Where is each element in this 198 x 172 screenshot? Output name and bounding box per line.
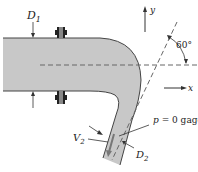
flange-bolt-top xyxy=(55,27,67,38)
flange-bolt-bottom xyxy=(55,91,67,104)
label-x-axis: x xyxy=(188,83,193,93)
label-d2: D2 xyxy=(135,149,149,163)
pipe-body xyxy=(3,38,141,165)
label-d1: D1 xyxy=(26,9,41,24)
d1-arrow-bottom xyxy=(31,91,35,96)
d1-arrow-top xyxy=(31,33,35,38)
label-v2: V2 xyxy=(73,132,85,146)
label-y-axis: y xyxy=(149,5,156,15)
y-axis-arrow-icon xyxy=(143,6,147,12)
label-pressure: p = 0 gage xyxy=(153,115,198,125)
pipe-bend-diagram: D1 y x 60° p = 0 gage V2 D2 xyxy=(0,0,198,172)
v2-arrow-tip xyxy=(97,130,103,135)
x-axis-arrow-icon xyxy=(181,86,187,90)
label-angle: 60° xyxy=(176,40,192,50)
